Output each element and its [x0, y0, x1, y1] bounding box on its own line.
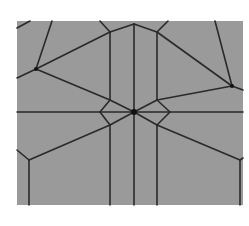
- diagram-node-right: [230, 84, 234, 88]
- diagram-canvas: [0, 0, 249, 226]
- diagram-node-center: [131, 109, 137, 115]
- diagram-node-left: [34, 67, 38, 71]
- diagram-panel: [17, 21, 243, 205]
